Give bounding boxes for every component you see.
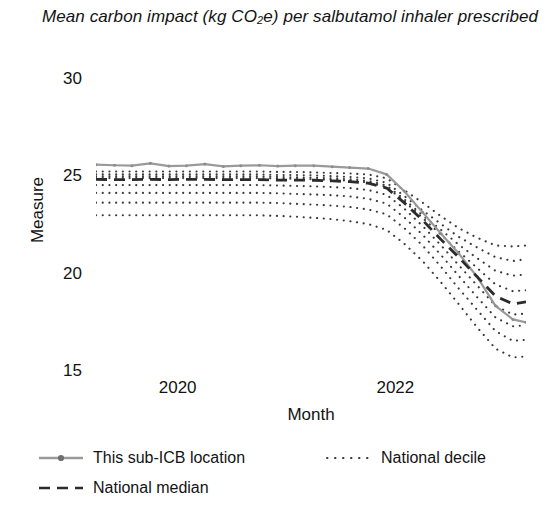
plot-area — [96, 80, 526, 372]
decile-line-decile-20 — [96, 203, 526, 341]
dashed-line-icon — [38, 480, 84, 496]
chart-title: Mean carbon impact (kg CO2e) per salbuta… — [40, 6, 540, 31]
y-tick-label-25: 25 — [36, 166, 82, 186]
legend-row-1: This sub-ICB location National decile — [38, 443, 548, 473]
decile-line-decile-30 — [96, 193, 526, 326]
series-marker-this-location — [185, 164, 188, 167]
legend-item-this-location[interactable]: This sub-ICB location — [38, 443, 245, 473]
series-marker-this-location — [494, 304, 497, 307]
series-marker-this-location — [113, 164, 116, 167]
chart-title-prefix: Mean carbon impact (kg CO — [42, 7, 257, 26]
y-tick-label-30: 30 — [36, 69, 82, 89]
chart-canvas — [96, 80, 526, 372]
series-marker-this-location — [239, 164, 242, 167]
x-axis-title: Month — [96, 405, 526, 425]
legend-item-national-median[interactable]: National median — [38, 473, 209, 503]
chart-legend: This sub-ICB location National decile Na — [38, 443, 548, 503]
series-marker-this-location — [421, 211, 424, 214]
series-marker-this-location — [167, 165, 170, 168]
series-marker-this-location — [312, 164, 315, 167]
legend-label-national-decile: National decile — [381, 449, 486, 467]
legend-row-2: National median — [38, 473, 548, 503]
series-marker-this-location — [403, 189, 406, 192]
series-marker-this-location — [258, 164, 261, 167]
y-tick-label-15: 15 — [36, 361, 82, 381]
x-tick-label-2022: 2022 — [355, 378, 435, 398]
series-marker-this-location — [348, 166, 351, 169]
series-marker-this-location — [149, 162, 152, 165]
chart-page: Mean carbon impact (kg CO2e) per salbuta… — [0, 0, 559, 526]
series-marker-this-location — [294, 164, 297, 167]
series-marker-this-location — [130, 164, 133, 167]
legend-label-national-median: National median — [93, 479, 209, 497]
series-marker-this-location — [331, 165, 334, 168]
series-marker-this-location — [385, 173, 388, 176]
decile-line-decile-90 — [96, 171, 526, 246]
series-marker-this-location — [276, 165, 279, 168]
decile-line-decile-10 — [96, 215, 526, 357]
series-line-national-median — [96, 179, 526, 304]
x-tick-label-2020: 2020 — [138, 378, 218, 398]
series-marker-this-location — [203, 163, 206, 166]
legend-item-national-decile[interactable]: National decile — [326, 443, 486, 473]
y-tick-label-20: 20 — [36, 264, 82, 284]
chart-title-suffix: e) per salbutamol inhaler prescribed — [263, 7, 538, 26]
series-marker-this-location — [511, 318, 514, 321]
solid-line-marker-icon — [38, 450, 84, 466]
series-line-this-location — [96, 163, 526, 322]
dotted-line-icon — [326, 450, 372, 466]
legend-label-this-location: This sub-ICB location — [93, 449, 245, 467]
series-marker-this-location — [367, 167, 370, 170]
series-marker-this-location — [222, 165, 225, 168]
decile-line-decile-70 — [96, 176, 526, 275]
series-marker-this-location — [440, 232, 443, 235]
